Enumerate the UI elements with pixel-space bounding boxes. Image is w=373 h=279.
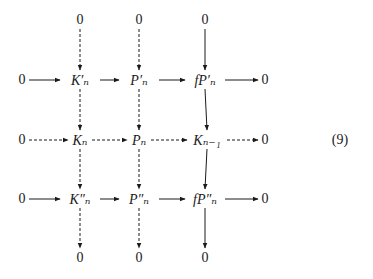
diagram-node: 0 — [136, 250, 143, 266]
diagram-node: P′ₙ — [130, 72, 147, 89]
diagram-node: 0 — [19, 191, 26, 207]
diagram-node: 0 — [262, 72, 269, 88]
diagram-node: 0 — [262, 191, 269, 207]
arrow-solid — [205, 89, 207, 130]
diagram-node: Kₙ₋₁ — [193, 132, 220, 149]
diagram-node: 0 — [136, 12, 143, 28]
diagram-node: 0 — [77, 12, 84, 28]
diagram-node: K″ₙ — [70, 191, 91, 208]
diagram-node: K′ₙ — [71, 72, 89, 89]
diagram-node: Kₙ — [72, 132, 87, 149]
diagram-node: fP″ₙ — [193, 191, 217, 208]
diagram-node: 0 — [262, 132, 269, 148]
diagram-node: 0 — [19, 72, 26, 88]
arrow-solid — [205, 149, 207, 189]
diagram-node: 0 — [19, 132, 26, 148]
diagram-node: fP′ₙ — [194, 72, 215, 89]
diagram-node: 0 — [202, 12, 209, 28]
diagram-node: P″ₙ — [129, 191, 149, 208]
diagram-node: Pₙ — [132, 132, 146, 149]
diagram-node: 0 — [202, 250, 209, 266]
diagram-node: 0 — [77, 250, 84, 266]
diagram-arrows — [0, 0, 373, 279]
equation-number: (9) — [332, 132, 348, 148]
